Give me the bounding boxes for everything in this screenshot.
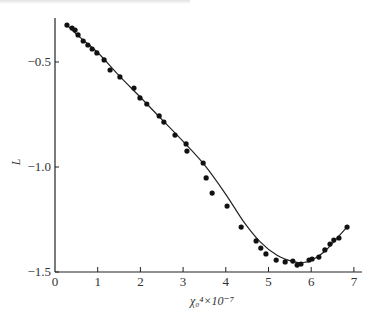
data-point xyxy=(298,261,303,266)
data-point xyxy=(239,224,244,229)
x-axis-title: χ₀⁴×10⁻⁷ xyxy=(189,294,234,308)
data-point xyxy=(137,95,142,100)
data-point xyxy=(90,46,95,51)
x-tick-label: 5 xyxy=(265,274,272,289)
data-point xyxy=(64,22,69,27)
x-tick-label: 4 xyxy=(223,274,230,289)
data-point xyxy=(161,119,166,124)
data-point xyxy=(224,203,229,208)
tick-marks xyxy=(55,62,354,272)
data-point xyxy=(107,67,112,72)
data-point xyxy=(263,251,268,256)
data-point xyxy=(81,38,86,43)
data-point xyxy=(283,259,288,264)
data-point xyxy=(117,74,122,79)
x-tick-label: 1 xyxy=(94,274,101,289)
x-tick-label: 7 xyxy=(351,274,358,289)
data-point xyxy=(309,256,314,261)
x-tick-label: 6 xyxy=(308,274,315,289)
data-point xyxy=(183,141,188,146)
data-point xyxy=(331,237,336,242)
data-point xyxy=(316,254,321,259)
y-tick-label: −1.0 xyxy=(27,159,51,174)
data-point xyxy=(157,113,162,118)
data-point xyxy=(72,27,77,32)
data-point xyxy=(344,224,349,229)
y-tick-label: −1.5 xyxy=(27,264,51,279)
data-point xyxy=(85,42,90,47)
y-tick-label: −0.5 xyxy=(27,54,51,69)
x-tick-label: 0 xyxy=(52,274,59,289)
x-tick-label: 2 xyxy=(137,274,144,289)
data-point xyxy=(75,32,80,37)
data-point xyxy=(322,247,327,252)
data-point xyxy=(254,238,259,243)
y-axis-title: L xyxy=(9,158,23,166)
data-point xyxy=(184,148,189,153)
data-point xyxy=(327,241,332,246)
data-point xyxy=(336,235,341,240)
data-point xyxy=(274,257,279,262)
data-point xyxy=(290,258,295,263)
data-point xyxy=(172,132,177,137)
data-points xyxy=(64,22,349,267)
data-point xyxy=(94,50,99,55)
data-point xyxy=(144,101,149,106)
fit-curve xyxy=(67,25,347,263)
data-point xyxy=(210,190,215,195)
data-point xyxy=(204,175,209,180)
scatter-chart: 01234567−0.5−1.0−1.5 L χ₀⁴×10⁻⁷ xyxy=(0,0,378,323)
data-point xyxy=(201,160,206,165)
data-point xyxy=(258,245,263,250)
data-point xyxy=(131,85,136,90)
x-tick-label: 3 xyxy=(180,274,187,289)
data-point xyxy=(102,57,107,62)
tick-labels: 01234567−0.5−1.0−1.5 xyxy=(27,54,357,289)
